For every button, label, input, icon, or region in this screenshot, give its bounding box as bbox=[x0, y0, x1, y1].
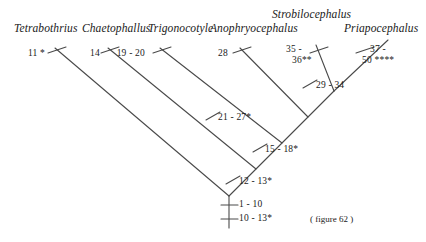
character-label-15-18: 15 - 18* bbox=[265, 144, 298, 154]
tick-28 bbox=[233, 47, 251, 53]
character-label-1-10: 1 - 10 bbox=[239, 199, 262, 209]
branch-trigonocotyle bbox=[160, 48, 282, 143]
tree-diagram bbox=[0, 0, 426, 242]
character-label-19-20: 19 - 20 bbox=[105, 48, 145, 58]
tick-12-13 bbox=[226, 176, 240, 184]
taxon-label-priapocephalus: Priapocephalus bbox=[344, 22, 418, 34]
figure-caption: ( figure 62 ) bbox=[310, 214, 353, 224]
branch-tetrabothrius bbox=[55, 48, 229, 196]
character-label-14: 14 bbox=[60, 48, 100, 58]
character-label-37: 37 - bbox=[370, 44, 386, 54]
taxon-label-trigonocotyle: Trigonocotyle bbox=[148, 22, 213, 34]
tick-19-20 bbox=[153, 47, 171, 53]
character-label-11: 11 * bbox=[0, 48, 45, 58]
taxon-label-strobilocephalus: Strobilocephalus bbox=[272, 8, 351, 20]
character-label-21-27: 21 - 27* bbox=[218, 112, 251, 122]
character-label-10-13: 10 - 13* bbox=[239, 213, 272, 223]
character-label-29-34: 29 - 34 bbox=[316, 80, 344, 90]
character-label-35: 35 - bbox=[286, 44, 302, 54]
character-label-36: 36** bbox=[292, 55, 312, 65]
character-label-28: 28 bbox=[188, 48, 228, 58]
taxon-label-anophryocephalus: Anophryocephalus bbox=[210, 22, 298, 34]
taxon-label-chaetophallus: Chaetophallus bbox=[82, 22, 150, 34]
tick-29-34 bbox=[303, 80, 317, 88]
character-label-50: 50 **** bbox=[362, 55, 394, 65]
cladogram-figure: Tetrabothrius Chaetophallus Trigonocotyl… bbox=[0, 0, 426, 242]
character-label-12-13: 12 - 13* bbox=[239, 176, 272, 186]
branch-chaetophallus bbox=[108, 48, 256, 169]
taxon-label-tetrabothrius: Tetrabothrius bbox=[14, 22, 78, 34]
